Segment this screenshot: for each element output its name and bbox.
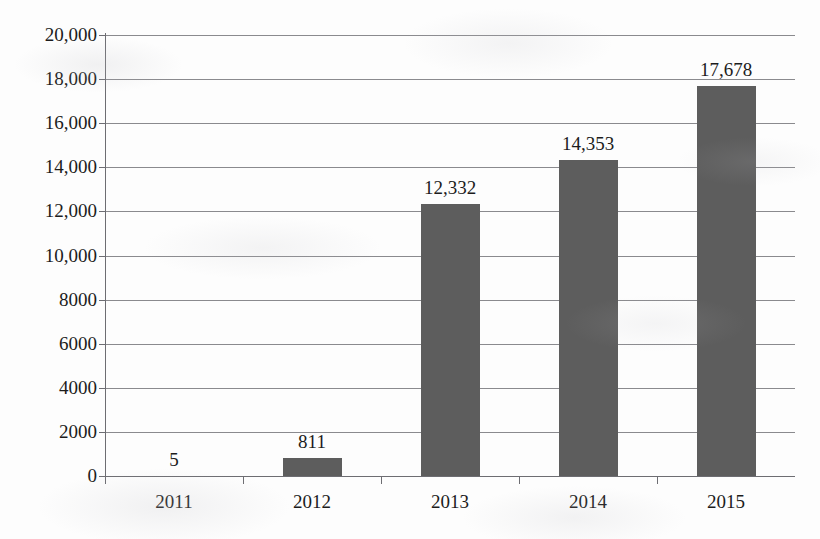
bar xyxy=(421,204,480,476)
gridline xyxy=(105,123,795,124)
bar-value-label: 17,678 xyxy=(666,60,786,79)
x-axis-tick xyxy=(519,477,520,484)
bar-value-label: 12,332 xyxy=(390,178,510,197)
y-axis-tick-label: 14,000 xyxy=(5,157,97,176)
y-axis-tick-label: 6000 xyxy=(5,334,97,353)
y-axis-tick-label: 4000 xyxy=(5,378,97,397)
y-axis-tick xyxy=(99,35,106,36)
x-axis-tick-label: 2015 xyxy=(666,492,786,511)
gridline xyxy=(105,35,795,36)
y-axis-tick-label: 18,000 xyxy=(5,69,97,88)
y-axis-tick xyxy=(99,123,106,124)
y-axis-tick-label: 20,000 xyxy=(5,25,97,44)
y-axis-tick xyxy=(99,211,106,212)
x-axis-tick xyxy=(381,477,382,484)
x-axis-tick-label: 2011 xyxy=(114,492,234,511)
bar xyxy=(283,458,342,476)
x-axis-tick xyxy=(243,477,244,484)
y-axis-tick-labels: 0200040006000800010,00012,00014,00016,00… xyxy=(0,0,97,539)
y-axis-tick xyxy=(99,79,106,80)
plot-area xyxy=(105,35,795,476)
y-axis-tick-label: 8000 xyxy=(5,290,97,309)
y-axis-tick xyxy=(99,432,106,433)
x-axis-tick xyxy=(657,477,658,484)
gridline xyxy=(105,167,795,168)
gridline xyxy=(105,79,795,80)
y-axis-tick xyxy=(99,344,106,345)
gridline xyxy=(105,476,795,477)
y-axis-tick xyxy=(99,256,106,257)
bar-value-label: 5 xyxy=(114,450,234,469)
bar-chart: 0200040006000800010,00012,00014,00016,00… xyxy=(0,0,820,539)
x-axis-tick-label: 2013 xyxy=(390,492,510,511)
y-axis-tick-label: 16,000 xyxy=(5,113,97,132)
bar-value-label: 811 xyxy=(252,432,372,451)
y-axis-tick-label: 2000 xyxy=(5,422,97,441)
y-axis-tick-label: 0 xyxy=(5,466,97,485)
x-axis-tick-label: 2014 xyxy=(528,492,648,511)
x-axis-tick-label: 2012 xyxy=(252,492,372,511)
bar xyxy=(559,160,618,476)
y-axis-tick xyxy=(99,300,106,301)
y-axis-tick xyxy=(99,388,106,389)
y-axis-tick-label: 12,000 xyxy=(5,201,97,220)
y-axis-tick xyxy=(99,167,106,168)
y-axis-tick-label: 10,000 xyxy=(5,246,97,265)
x-axis-origin-tick xyxy=(105,477,106,484)
bar-value-label: 14,353 xyxy=(528,134,648,153)
bar xyxy=(697,86,756,476)
